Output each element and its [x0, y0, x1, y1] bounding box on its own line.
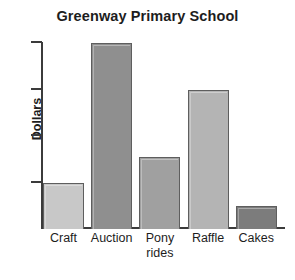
y-axis-tick: [31, 88, 42, 90]
bar-highlight: [93, 45, 130, 229]
x-axis-tick-label-line: Raffle: [181, 231, 235, 246]
y-axis-tick: [31, 181, 42, 183]
bar-highlight: [45, 185, 82, 230]
x-axis-tick-label-line: Cakes: [229, 231, 283, 246]
x-axis-tick-labels: CraftAuctionPonyridesRaffleCakes: [43, 231, 285, 277]
x-axis-tick-label-line: rides: [133, 246, 187, 261]
bar-highlight: [141, 159, 178, 229]
bar[interactable]: [139, 157, 180, 229]
x-axis-tick-label-line: Craft: [37, 231, 91, 246]
bar-highlight: [238, 208, 275, 229]
x-axis-tick-label: Raffle: [181, 231, 235, 246]
bar[interactable]: [43, 183, 84, 230]
bar-series: [43, 36, 285, 229]
chart-title: Greenway Primary School: [0, 8, 295, 24]
x-axis-tick-label: Ponyrides: [133, 231, 187, 261]
bar-highlight: [190, 92, 227, 230]
y-axis-tick: [31, 134, 42, 136]
bar[interactable]: [188, 90, 229, 230]
x-axis-tick-label: Craft: [37, 231, 91, 246]
x-axis-tick-label: Auction: [85, 231, 139, 246]
x-axis-tick-label-line: Auction: [85, 231, 139, 246]
bar-chart: Greenway Primary School Dollars CraftAuc…: [0, 0, 295, 280]
x-axis-tick-label: Cakes: [229, 231, 283, 246]
x-axis-tick-label-line: Pony: [133, 231, 187, 246]
y-axis-tick: [31, 41, 42, 43]
bar[interactable]: [236, 206, 277, 229]
bar[interactable]: [91, 43, 132, 229]
